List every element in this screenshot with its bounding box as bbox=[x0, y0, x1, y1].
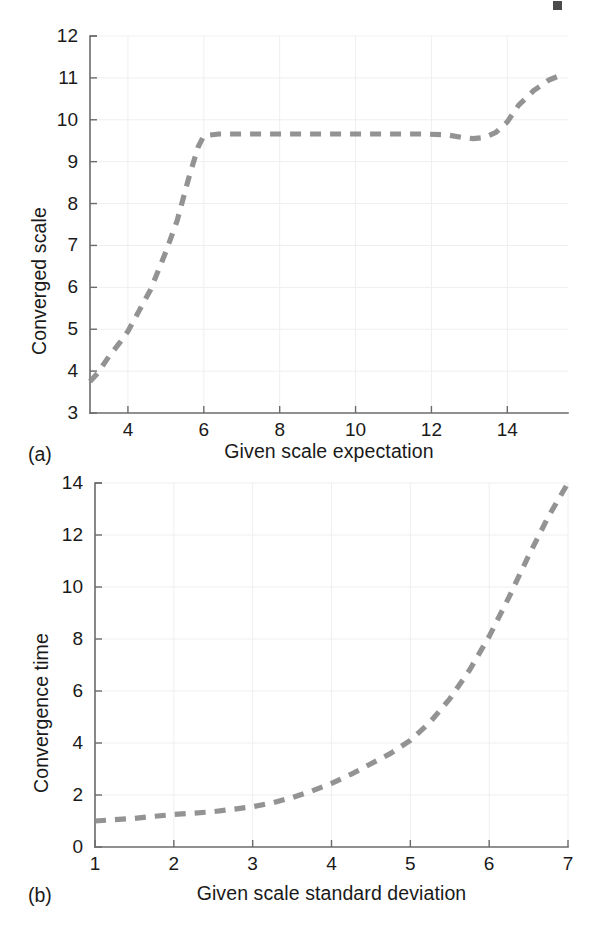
y-axis-tick-label: 5 bbox=[0, 318, 78, 340]
chart-b-x-axis-label: Given scale standard deviation bbox=[95, 882, 568, 905]
chart-b-canvas bbox=[0, 460, 589, 944]
x-axis-tick-label: 6 bbox=[484, 853, 495, 875]
y-axis-tick-label: 10 bbox=[0, 576, 83, 598]
y-axis-tick-label: 6 bbox=[0, 276, 78, 298]
grid-lines bbox=[90, 36, 568, 413]
y-axis-tick-label: 3 bbox=[0, 402, 78, 424]
y-axis-tick-label: 9 bbox=[0, 151, 78, 173]
y-axis-tick-label: 14 bbox=[0, 472, 83, 494]
chart-b-y-axis-label: Convergence time bbox=[30, 633, 53, 793]
x-axis-tick-label: 5 bbox=[405, 853, 416, 875]
y-axis-tick-label: 8 bbox=[0, 193, 78, 215]
x-axis-tick-label: 10 bbox=[345, 419, 366, 441]
x-axis-tick-label: 1 bbox=[90, 853, 101, 875]
scan-artifact-mark bbox=[553, 1, 562, 10]
x-axis-tick-label: 12 bbox=[421, 419, 442, 441]
y-axis-tick-label: 7 bbox=[0, 234, 78, 256]
y-axis-tick-label: 4 bbox=[0, 732, 83, 754]
y-axis-tick-label: 0 bbox=[0, 836, 83, 858]
figure-root: Converged scale Given scale expectation … bbox=[0, 0, 589, 944]
y-axis-tick-label: 8 bbox=[0, 628, 83, 650]
grid-lines bbox=[95, 483, 568, 847]
x-axis-tick-label: 6 bbox=[199, 419, 210, 441]
y-axis-tick-label: 12 bbox=[0, 25, 78, 47]
axis-lines bbox=[90, 36, 568, 413]
panel-tag-b: (b) bbox=[28, 884, 52, 907]
x-axis-tick-label: 14 bbox=[497, 419, 518, 441]
x-axis-tick-label: 8 bbox=[274, 419, 285, 441]
y-axis-tick-label: 11 bbox=[0, 67, 78, 89]
y-axis-tick-label: 12 bbox=[0, 524, 83, 546]
chart-a-canvas bbox=[0, 0, 589, 472]
x-axis-tick-label: 3 bbox=[247, 853, 258, 875]
chart-panel-a: Converged scale Given scale expectation … bbox=[0, 0, 589, 472]
chart-panel-b: Convergence time Given scale standard de… bbox=[0, 460, 589, 944]
x-axis-tick-label: 2 bbox=[169, 853, 180, 875]
axis-ticks bbox=[90, 36, 507, 413]
y-axis-tick-label: 10 bbox=[0, 109, 78, 131]
x-axis-tick-label: 4 bbox=[123, 419, 134, 441]
x-axis-tick-label: 7 bbox=[563, 853, 574, 875]
y-axis-tick-label: 2 bbox=[0, 784, 83, 806]
x-axis-tick-label: 4 bbox=[326, 853, 337, 875]
y-axis-tick-label: 6 bbox=[0, 680, 83, 702]
y-axis-tick-label: 4 bbox=[0, 360, 78, 382]
